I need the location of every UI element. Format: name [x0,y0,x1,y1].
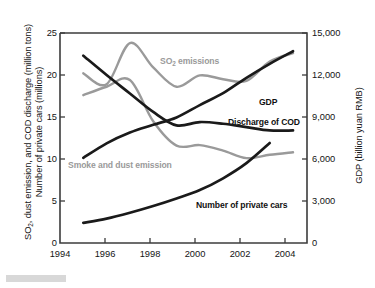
plot-canvas [0,0,375,288]
chart-figure: SO2, dust emission, and COD discharge (m… [0,0,375,288]
caption-strip-decoration [6,275,66,282]
series-line-smoke-and-dust-emission [83,78,293,158]
series-layer [83,43,293,223]
series-line-gdp [83,51,293,158]
series-line-number-of-private-cars [83,143,269,223]
